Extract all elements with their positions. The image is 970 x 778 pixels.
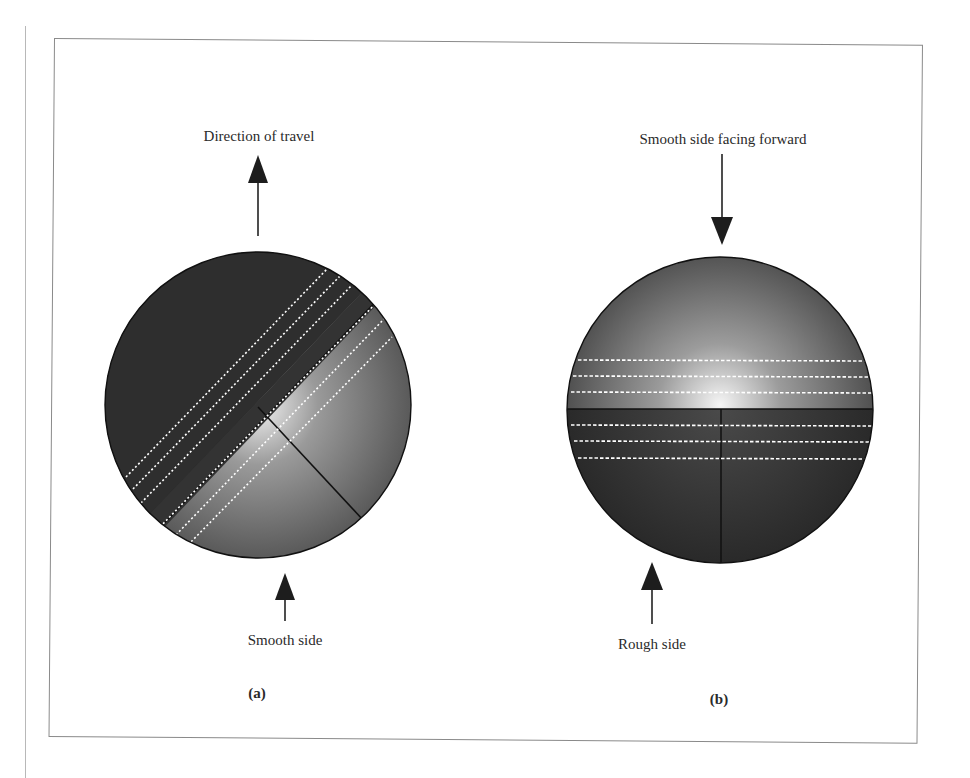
ball-b (560, 250, 880, 574)
smooth-side-label: Smooth side (248, 632, 323, 649)
direction-arrow-icon (248, 155, 268, 236)
rough-side-label: Rough side (618, 636, 686, 653)
direction-of-travel-label: Direction of travel (204, 128, 315, 145)
smooth-side-arrow-icon (275, 573, 295, 621)
rough-side-arrow-icon (641, 562, 663, 624)
smooth-forward-arrow-icon (711, 154, 733, 245)
panel-a-caption: (a) (248, 685, 266, 702)
panel-b-caption: (b) (710, 691, 728, 708)
smooth-side-forward-label: Smooth side facing forward (639, 131, 806, 148)
ball-a (80, 230, 420, 590)
cricket-ball-diagram (0, 0, 970, 778)
